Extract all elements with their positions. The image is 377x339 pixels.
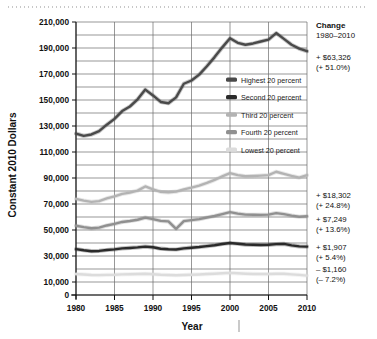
- y-tick-label: 70,000: [44, 199, 70, 209]
- y-tick-label: 150,000: [39, 95, 69, 105]
- legend-label: Fourth 20 percent: [241, 128, 298, 137]
- annotation-amount: – $1,160: [316, 265, 347, 274]
- annotation-percent: (+ 13.6%): [316, 225, 350, 234]
- x-tick-label: 2010: [298, 303, 317, 313]
- annotation-percent: (+ 24.8%): [316, 201, 350, 210]
- y-axis-title: Constant 2010 Dollars: [7, 112, 18, 217]
- y-tick-label: 210,000: [39, 17, 69, 27]
- annotation-percent: (+ 51.0%): [316, 63, 350, 72]
- x-tick-label: 1980: [67, 303, 86, 313]
- annotation-amount: + $7,249: [316, 215, 347, 224]
- y-tick-label: 130,000: [39, 121, 69, 131]
- legend-label: Highest 20 percent: [241, 76, 301, 85]
- annotation-amount: + $1,907: [316, 243, 347, 252]
- legend-swatch: [226, 95, 237, 99]
- x-tick-label: 2000: [221, 303, 240, 313]
- annotation-header-title: Change: [316, 21, 346, 30]
- legend-swatch: [226, 77, 237, 81]
- legend-swatch: [226, 112, 237, 116]
- x-axis-title: Year: [181, 321, 202, 332]
- x-tick-labels: 1980198519901995200020052010: [67, 295, 317, 313]
- legend-label: Second 20 percent: [241, 93, 301, 102]
- line-chart: 010,00030,00050,00070,00090,000110,00013…: [0, 0, 377, 339]
- x-tick-label: 1990: [144, 303, 163, 313]
- legend-swatch: [226, 130, 237, 134]
- x-tick-label: 1995: [182, 303, 201, 313]
- y-tick-label: 50,000: [44, 225, 70, 235]
- x-tick-label: 2005: [259, 303, 278, 313]
- chart-figure: 010,00030,00050,00070,00090,000110,00013…: [0, 0, 377, 339]
- annotation-amount: + $18,302: [316, 191, 351, 200]
- change-annotations: Change1980–2010+ $63,326(+ 51.0%)+ $18,3…: [316, 21, 356, 284]
- gridlines: [76, 22, 307, 295]
- chart-legend: Highest 20 percentSecond 20 percentThird…: [226, 76, 301, 155]
- annotation-percent: (+ 5.4%): [316, 253, 346, 262]
- legend-label: Third 20 percent: [241, 111, 293, 120]
- y-tick-label: 170,000: [39, 69, 69, 79]
- legend-label: Lowest 20 percent: [241, 146, 300, 155]
- x-tick-label: 1985: [105, 303, 124, 313]
- annotation-percent: (– 7.2%): [316, 275, 346, 284]
- y-tick-label: 90,000: [44, 173, 70, 183]
- y-tick-label: 30,000: [44, 251, 70, 261]
- annotation-header-range: 1980–2010: [316, 31, 356, 40]
- legend-swatch: [226, 147, 237, 151]
- axis-lines: [71, 22, 307, 299]
- annotation-amount: + $63,326: [316, 53, 351, 62]
- y-tick-label: 10,000: [44, 277, 70, 287]
- y-tick-label: 0: [64, 290, 69, 300]
- y-tick-label: 190,000: [39, 43, 69, 53]
- y-tick-label: 110,000: [39, 147, 69, 157]
- y-tick-labels: 010,00030,00050,00070,00090,000110,00013…: [39, 17, 76, 300]
